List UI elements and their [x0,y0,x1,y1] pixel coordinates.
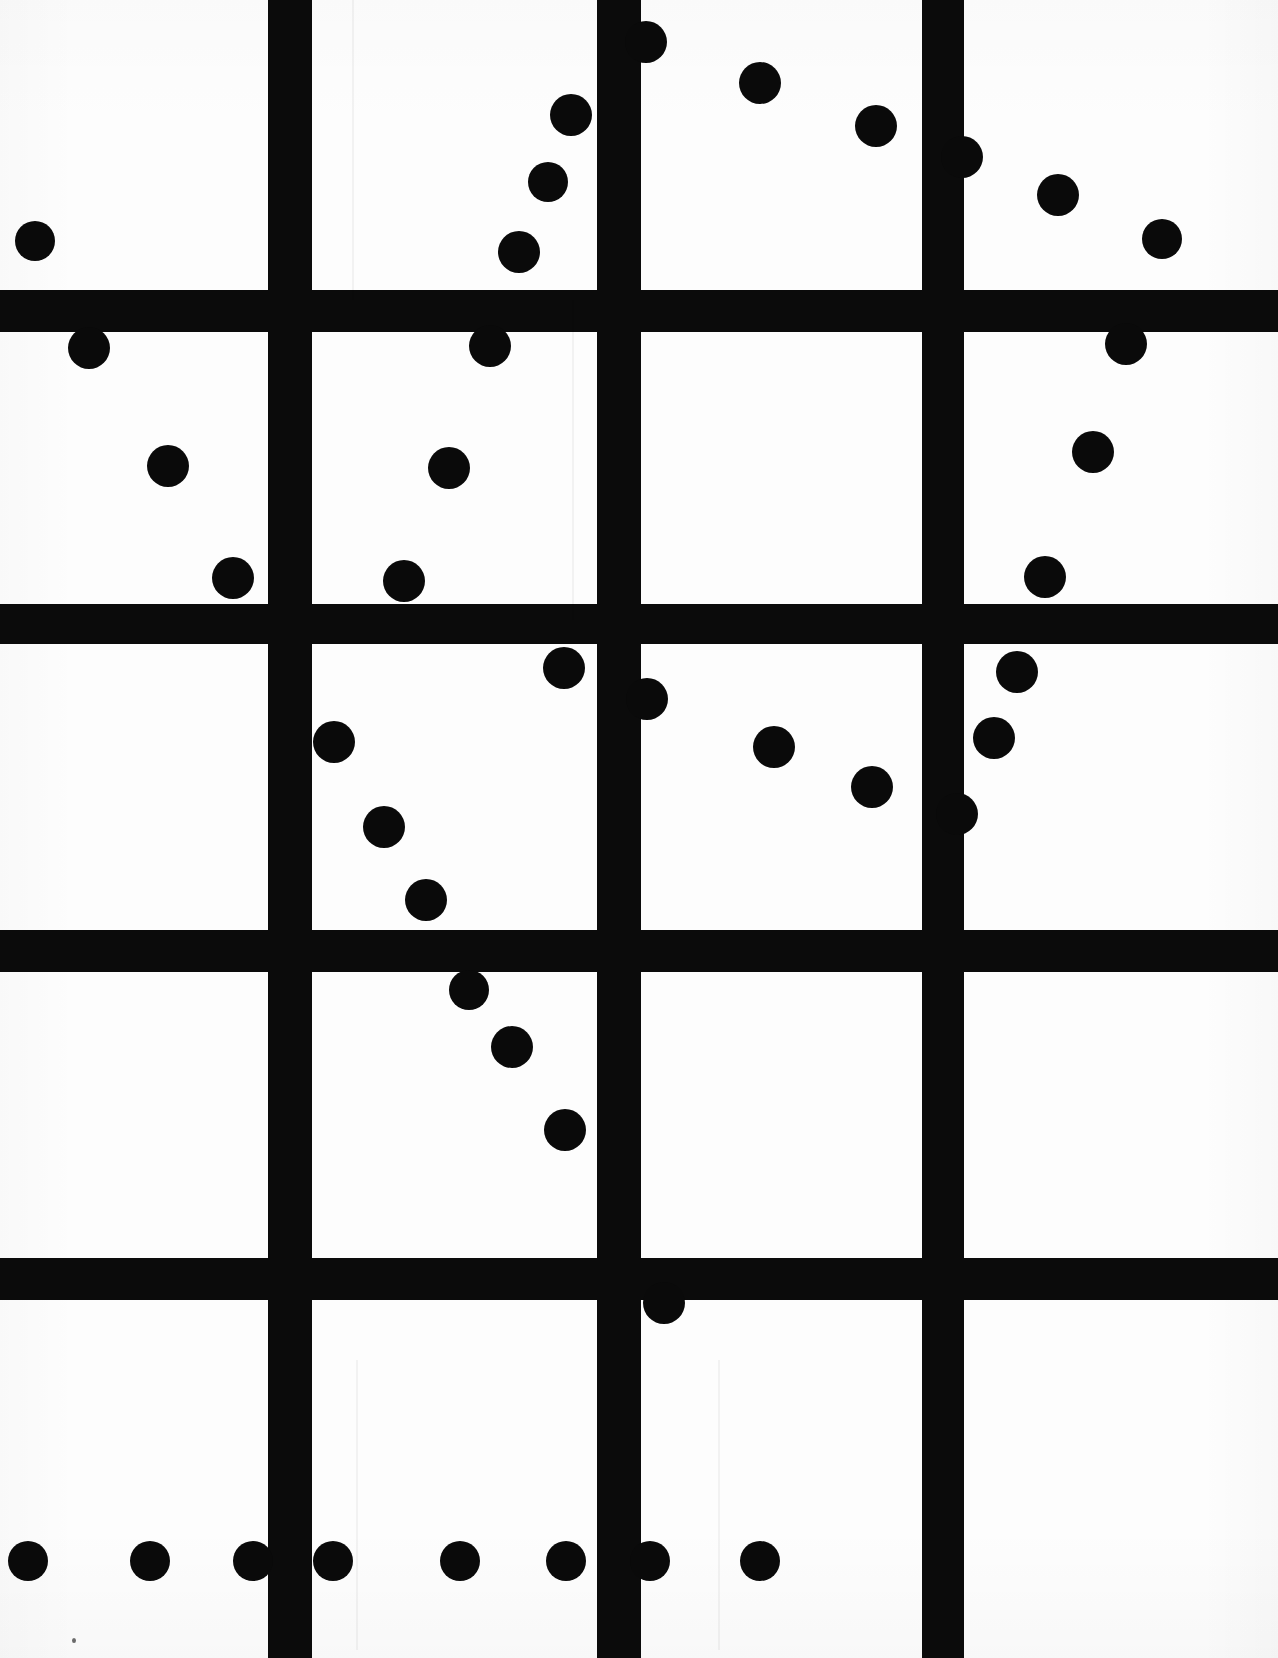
dot-marker [498,231,540,273]
dot-marker [491,1026,533,1068]
scan-speck [72,1638,76,1643]
dot-marker [449,970,489,1010]
dot-marker [855,105,897,147]
dot-marker [996,651,1038,693]
dot-marker [1072,431,1114,473]
dot-marker [440,1541,480,1581]
horizontal-line-4 [0,1258,1278,1300]
dot-marker [428,447,470,489]
dot-marker [1105,323,1147,365]
dot-marker [753,726,795,768]
dot-marker [212,557,254,599]
dot-marker [313,1541,353,1581]
scan-streak-2 [572,300,574,620]
dot-marker [405,879,447,921]
dot-marker [383,560,425,602]
dot-marker [630,1541,670,1581]
vertical-line-1 [268,0,312,1658]
dot-marker [528,162,568,202]
dot-marker [8,1541,48,1581]
dot-marker [851,766,893,808]
dot-marker [469,325,511,367]
dot-marker [941,136,983,178]
dot-marker [15,221,55,261]
horizontal-line-3 [0,930,1278,972]
scan-streak-1 [352,0,354,300]
dot-marker [130,1541,170,1581]
dot-marker [739,62,781,104]
dot-marker [625,21,667,63]
dot-marker [1024,556,1066,598]
dot-marker [550,94,592,136]
dot-marker [544,1109,586,1151]
scanned-page [0,0,1278,1658]
dot-marker [1037,174,1079,216]
dot-marker [233,1541,273,1581]
dot-marker [936,793,978,835]
vertical-line-2 [597,0,641,1658]
horizontal-line-1 [0,290,1278,332]
horizontal-line-2 [0,604,1278,644]
dot-marker [313,721,355,763]
scan-streak-4 [356,1360,358,1650]
dot-marker [643,1282,685,1324]
dot-marker [363,806,405,848]
dot-marker [546,1541,586,1581]
dot-marker [626,678,668,720]
dot-marker [1142,219,1182,259]
dot-marker [973,717,1015,759]
scan-streak-3 [718,1360,720,1650]
dot-marker [543,647,585,689]
dot-marker [68,327,110,369]
dot-marker [740,1541,780,1581]
dot-marker [147,445,189,487]
